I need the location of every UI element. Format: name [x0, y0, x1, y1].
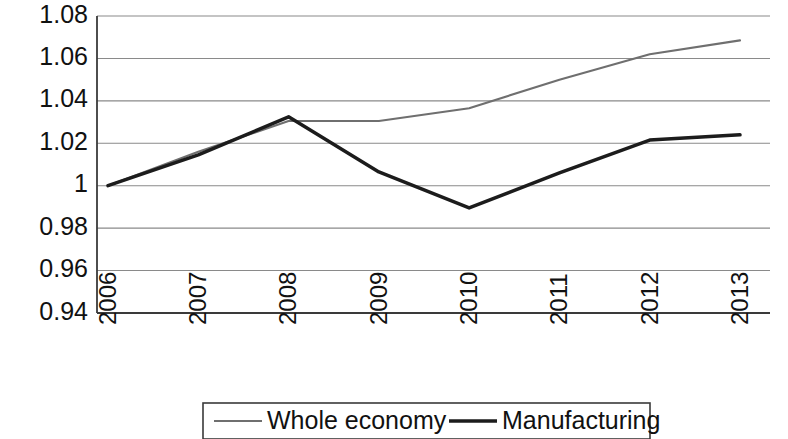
legend: Whole economy Manufacturing — [203, 403, 660, 439]
y-tick-label-1.04: 1.04 — [39, 84, 88, 112]
y-tick-label-1.02: 1.02 — [39, 127, 88, 155]
legend-label-whole-economy: Whole economy — [267, 406, 447, 434]
y-tick-label-1.06: 1.06 — [39, 42, 88, 70]
y-tick-label-1.08: 1.08 — [39, 0, 88, 28]
y-tick-label-0.94: 0.94 — [39, 297, 88, 325]
x-tick-label-2008: 2008 — [274, 272, 301, 325]
y-tick-label-0.98: 0.98 — [39, 212, 88, 240]
x-tick-label-2009: 2009 — [365, 272, 392, 325]
legend-label-manufacturing: Manufacturing — [502, 406, 660, 434]
x-tick-label-2010: 2010 — [455, 272, 482, 325]
chart-figure: 1.081.061.041.0210.980.960.94 2006200720… — [0, 0, 788, 439]
x-tick-label-2012: 2012 — [636, 272, 663, 325]
line-chart: 1.081.061.041.0210.980.960.94 2006200720… — [0, 0, 788, 439]
y-axis-tick-labels: 1.081.061.041.0210.980.960.94 — [39, 0, 88, 325]
series-line-whole-economy — [108, 40, 740, 185]
x-tick-label-2011: 2011 — [545, 273, 572, 325]
x-tick-label-2007: 2007 — [184, 272, 211, 325]
x-tick-label-2006: 2006 — [94, 272, 121, 325]
x-axis-tick-labels: 20062007200820092010201120122013 — [94, 272, 753, 325]
series-line-manufacturing — [108, 117, 740, 208]
y-tick-label-0.96: 0.96 — [39, 254, 88, 282]
x-tick-label-2013: 2013 — [726, 272, 753, 325]
y-tick-label-1: 1 — [74, 169, 88, 197]
gridlines-group — [97, 16, 770, 313]
